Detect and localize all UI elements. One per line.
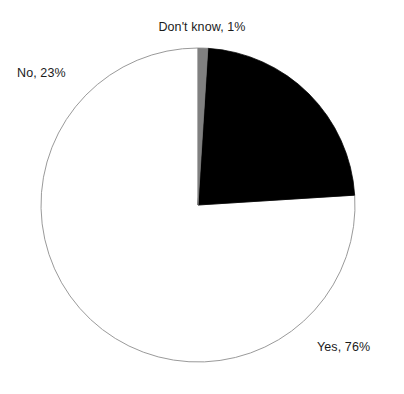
pie-label-dont-know: Don't know, 1% bbox=[0, 20, 404, 34]
pie-slice-group bbox=[41, 48, 355, 362]
pie-label-no: No, 23% bbox=[17, 66, 66, 80]
pie-label-yes: Yes, 76% bbox=[317, 340, 370, 354]
pie-slice-no bbox=[198, 48, 355, 205]
pie-chart-figure: Yes, 76% No, 23% Don't know, 1% bbox=[0, 0, 404, 394]
pie-chart-canvas bbox=[0, 0, 404, 394]
